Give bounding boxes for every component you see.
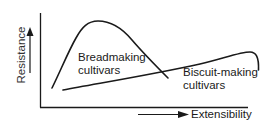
resistance-arrow-icon [27,27,34,73]
biscuit-making-label-line1: Biscuit-making [183,66,258,79]
breadmaking-label-line1: Breadmaking [78,51,146,64]
y-axis-label: Resistance [15,27,27,84]
breadmaking-label-line2: cultivars [78,64,120,77]
extensibility-arrow-icon [138,111,189,118]
biscuit-making-label-line2: cultivars [183,79,225,92]
x-axis-label: Extensibility [191,108,252,121]
